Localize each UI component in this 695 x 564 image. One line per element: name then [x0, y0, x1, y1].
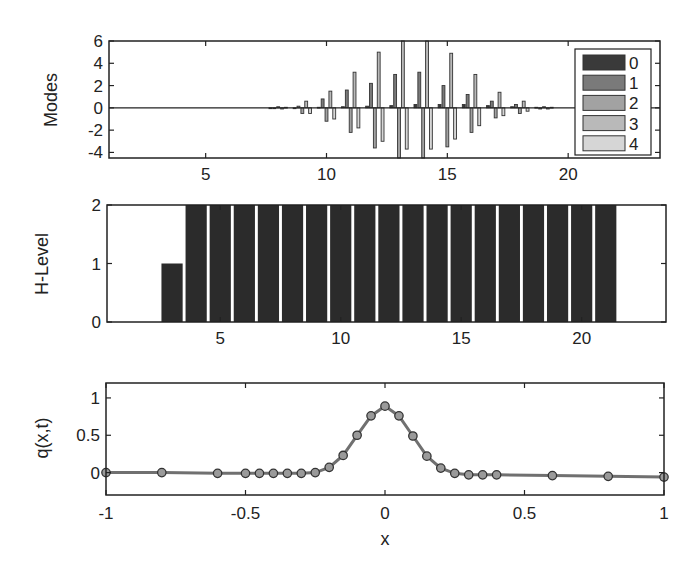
q-ticks: -1-0.500.5100.51	[76, 383, 668, 523]
figure: 5101520-4-20246 01234 Modes 5101520012 H…	[0, 0, 695, 564]
modes-bar-series-2	[446, 108, 449, 147]
q-axes-frame	[106, 383, 664, 495]
q-data-point	[409, 432, 417, 440]
modes-bar-series-4	[333, 108, 336, 119]
hlevel-bar	[523, 205, 544, 322]
hlevel-bar	[571, 205, 592, 322]
modes-y-axis-label: Modes	[41, 73, 61, 127]
modes-x-tick-label: 5	[201, 165, 210, 184]
q-data-point	[492, 471, 500, 479]
q-data-point	[311, 468, 319, 476]
q-x-tick-label: 0.5	[513, 504, 537, 523]
q-y-tick-label: 0.5	[76, 426, 100, 445]
modes-bar-series-1	[490, 101, 493, 108]
legend-label-4: 4	[629, 135, 638, 154]
q-data-point	[548, 471, 556, 479]
q-panel: -1-0.500.5100.51 q(x,t) x	[32, 383, 669, 549]
legend-label-0: 0	[629, 54, 638, 73]
hlevel-bar	[402, 205, 423, 322]
modes-bar-series-4	[357, 108, 360, 128]
q-y-axis-label: q(x,t)	[32, 417, 52, 458]
q-data-point	[395, 412, 403, 420]
q-x-tick-label: -1	[98, 504, 113, 523]
q-data-point	[423, 452, 431, 460]
modes-bar-series-2	[494, 108, 497, 118]
modes-bar-series-2	[518, 108, 521, 114]
modes-x-tick-label: 20	[559, 165, 578, 184]
hlevel-bar	[234, 205, 255, 322]
hlevel-bar	[306, 205, 327, 322]
modes-bar-series-4	[478, 108, 481, 126]
q-data-point	[283, 469, 291, 477]
modes-bar-series-2	[349, 108, 352, 133]
modes-bar-series-3	[474, 74, 477, 107]
q-data-point	[437, 464, 445, 472]
q-data-point	[269, 469, 277, 477]
hlevel-y-axis-label: H-Level	[32, 233, 52, 295]
hlevel-x-tick-label: 10	[331, 329, 350, 348]
q-data-point	[158, 468, 166, 476]
q-data-point	[255, 469, 263, 477]
q-x-tick-label: -0.5	[231, 504, 260, 523]
q-data-point	[213, 469, 221, 477]
modes-x-tick-label: 10	[317, 165, 336, 184]
legend-label-3: 3	[629, 115, 638, 134]
q-x-tick-label: 1	[659, 504, 668, 523]
modes-bar-series-4	[405, 108, 408, 149]
legend-label-2: 2	[629, 94, 638, 113]
modes-bar-series-4	[454, 108, 457, 139]
modes-bar-series-3	[522, 101, 525, 108]
modes-y-tick-label: 0	[94, 99, 103, 118]
hlevel-panel: 5101520012 H-Level	[32, 196, 666, 348]
modes-bar-series-2	[422, 108, 425, 158]
modes-bar-series-1	[442, 86, 445, 108]
hlevel-bar	[282, 205, 303, 322]
modes-legend: 01234	[575, 49, 651, 155]
hlevel-y-tick-label: 1	[92, 255, 101, 274]
q-series-line	[106, 406, 664, 477]
modes-y-tick-label: 6	[94, 32, 103, 51]
modes-y-tick-label: -2	[88, 121, 103, 140]
modes-bar-series-2	[301, 108, 304, 114]
modes-bar-series-1	[466, 94, 469, 107]
q-data-point	[339, 451, 347, 459]
modes-bar-series-1	[345, 90, 348, 108]
modes-bar-series-4	[502, 108, 505, 116]
hlevel-bar	[186, 205, 207, 322]
modes-bar-series-3	[498, 92, 501, 108]
modes-bar-series-2	[373, 108, 376, 148]
hlevel-y-tick-label: 0	[92, 313, 101, 332]
q-y-tick-label: 1	[91, 389, 100, 408]
modes-y-tick-label: 4	[94, 54, 103, 73]
modes-bars	[269, 41, 553, 158]
hlevel-bar	[499, 205, 520, 322]
modes-bar-series-2	[398, 108, 401, 158]
hlevel-bar	[451, 205, 472, 322]
legend-swatch-4	[583, 136, 625, 151]
hlevel-bar	[378, 205, 399, 322]
legend-swatch-3	[583, 116, 625, 131]
modes-y-tick-label: -4	[88, 143, 103, 162]
hlevel-bar	[475, 205, 496, 322]
hlevel-bar	[547, 205, 568, 322]
modes-bar-series-1	[321, 99, 324, 108]
modes-bar-series-1	[394, 74, 397, 107]
hlevel-bar	[330, 205, 351, 322]
q-y-tick-label: 0	[91, 464, 100, 483]
legend-swatch-2	[583, 95, 625, 110]
hlevel-bar	[595, 205, 616, 322]
hlevel-bar	[258, 205, 279, 322]
legend-swatch-1	[583, 75, 625, 90]
modes-bar-series-3	[450, 53, 453, 108]
q-data-point	[604, 472, 612, 480]
modes-bar-series-3	[377, 52, 380, 108]
modes-bar-series-4	[381, 108, 384, 141]
modes-bar-series-3	[353, 72, 356, 108]
q-data-point	[367, 412, 375, 420]
modes-bar-series-4	[429, 108, 432, 149]
modes-bar-series-3	[329, 91, 332, 108]
q-data-point	[478, 471, 486, 479]
hlevel-bar	[426, 205, 447, 322]
q-data-point	[381, 402, 389, 410]
modes-bar-series-1	[418, 72, 421, 108]
